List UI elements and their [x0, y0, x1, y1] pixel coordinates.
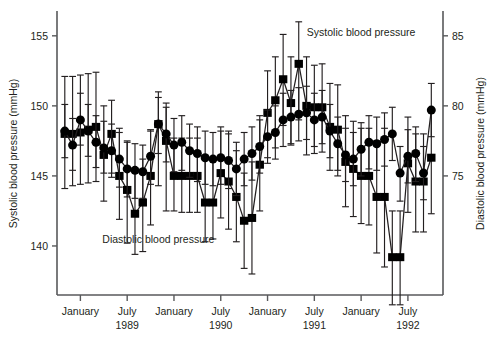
data-point-circle — [99, 143, 108, 152]
data-point-square — [139, 199, 147, 207]
data-point-square — [427, 154, 435, 162]
data-point-circle — [91, 138, 100, 147]
data-point-circle — [396, 169, 405, 178]
data-point-circle — [224, 156, 233, 165]
diastolic-series-annotation: Diastolic blood pressure — [102, 233, 214, 245]
x-axis-ticklabel: July — [118, 305, 137, 317]
data-point-circle — [341, 150, 350, 159]
data-point-circle — [411, 149, 420, 158]
data-point-circle — [263, 132, 272, 141]
data-point-square — [201, 199, 209, 207]
data-point-square — [170, 172, 178, 180]
data-point-circle — [349, 155, 358, 164]
data-point-circle — [107, 146, 116, 155]
data-point-circle — [138, 167, 147, 176]
x-axis-year-label: 1991 — [303, 319, 327, 331]
x-axis-ticklabel: July — [211, 305, 230, 317]
data-point-circle — [177, 138, 186, 147]
data-point-circle — [146, 152, 155, 161]
data-point-circle — [403, 152, 412, 161]
x-axis-ticklabel: January — [342, 305, 380, 317]
x-axis-ticklabel: January — [62, 305, 100, 317]
x-axis-year-label: 1992 — [396, 319, 420, 331]
right-axis-ticklabel: 85 — [452, 30, 464, 42]
data-point-circle — [364, 138, 373, 147]
chart-canvas: 155150145140Systolic blood pressure (mmH… — [0, 0, 499, 338]
data-point-square — [396, 253, 404, 261]
data-point-square — [373, 193, 381, 201]
data-point-circle — [185, 146, 194, 155]
data-point-square — [295, 60, 303, 68]
left-axis-ticklabel: 145 — [30, 170, 48, 182]
data-point-circle — [130, 166, 139, 175]
data-point-square — [209, 199, 217, 207]
data-point-square — [365, 172, 373, 180]
axes-group: 155150145140Systolic blood pressure (mmH… — [7, 11, 486, 331]
data-point-circle — [154, 120, 163, 129]
x-axis-ticklabel: July — [399, 305, 418, 317]
data-point-circle — [232, 164, 241, 173]
data-point-circle — [279, 115, 288, 124]
data-point-circle — [240, 155, 249, 164]
left-axis-ticklabel: 155 — [30, 30, 48, 42]
data-point-circle — [68, 141, 77, 150]
x-axis-year-label: 1989 — [116, 319, 140, 331]
data-point-square — [380, 193, 388, 201]
data-point-circle — [247, 149, 256, 158]
data-point-circle — [76, 115, 85, 124]
data-point-circle — [318, 113, 327, 122]
series-group — [60, 22, 436, 305]
data-point-circle — [201, 153, 210, 162]
data-point-circle — [169, 141, 178, 150]
x-axis-ticklabel: January — [249, 305, 287, 317]
data-point-circle — [255, 142, 264, 151]
data-point-circle — [325, 127, 334, 136]
data-point-circle — [302, 108, 311, 117]
data-point-square — [279, 75, 287, 83]
data-point-circle — [310, 115, 319, 124]
left-axis-ticklabel: 140 — [30, 240, 48, 252]
data-point-circle — [208, 155, 217, 164]
data-point-circle — [193, 149, 202, 158]
data-point-square — [178, 172, 186, 180]
data-point-square — [240, 217, 248, 225]
x-axis-year-label: 1990 — [209, 319, 233, 331]
data-point-circle — [388, 129, 397, 138]
series-systolic — [61, 22, 436, 305]
data-point-circle — [333, 139, 342, 148]
right-axis-ticklabel: 75 — [452, 170, 464, 182]
data-point-circle — [84, 127, 93, 136]
left-axis-ticklabel: 150 — [30, 100, 48, 112]
x-axis-ticklabel: January — [155, 305, 193, 317]
data-point-square — [131, 210, 139, 218]
x-axis-ticklabel: July — [305, 305, 324, 317]
data-point-circle — [216, 153, 225, 162]
data-point-circle — [427, 106, 436, 115]
right-axis-title: Diastolic blood pressure (mmHg) — [474, 77, 486, 230]
data-point-circle — [419, 169, 428, 178]
data-point-circle — [60, 127, 69, 136]
data-point-circle — [380, 135, 389, 144]
data-point-circle — [372, 139, 381, 148]
blood-pressure-chart: 155150145140Systolic blood pressure (mmH… — [0, 0, 499, 338]
series-diastolic — [60, 83, 436, 201]
data-point-square — [388, 253, 396, 261]
data-point-circle — [286, 113, 295, 122]
data-point-circle — [294, 110, 303, 119]
data-point-circle — [115, 155, 124, 164]
data-point-circle — [357, 145, 366, 154]
data-point-circle — [123, 164, 132, 173]
data-point-square — [248, 214, 256, 222]
data-point-square — [271, 96, 279, 104]
right-axis-ticklabel: 80 — [452, 100, 464, 112]
left-axis-title: Systolic blood pressure (mmHg) — [7, 79, 19, 228]
data-point-circle — [271, 128, 280, 137]
data-point-circle — [162, 129, 171, 138]
systolic-series-annotation: Systolic blood pressure — [307, 26, 416, 38]
